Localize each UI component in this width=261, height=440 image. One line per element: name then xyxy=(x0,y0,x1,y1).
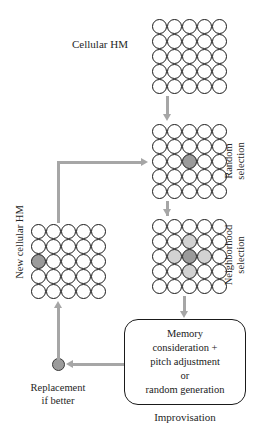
grid-cell xyxy=(167,139,182,154)
label-new-cellular-hm: New cellular HM xyxy=(14,194,26,290)
grid-cell xyxy=(182,139,197,154)
label-random-selection: Randomselection xyxy=(223,115,248,207)
grid-cell xyxy=(197,169,212,184)
grid-cell-selected xyxy=(182,154,197,169)
grid-cell-neighbor xyxy=(197,249,212,264)
grid-cell-neighbor xyxy=(182,234,197,249)
grid-cell xyxy=(76,224,91,239)
connector-line-hm-to-random xyxy=(166,96,169,116)
grid-cell xyxy=(182,124,197,139)
grid-cell xyxy=(182,279,197,294)
grid-cell xyxy=(152,234,167,249)
grid-cell xyxy=(91,254,106,269)
grid-cell xyxy=(152,79,167,94)
grid-random-selection xyxy=(152,124,227,199)
grid-cell xyxy=(167,219,182,234)
grid-cell xyxy=(212,19,227,34)
grid-cell xyxy=(91,269,106,284)
grid-cell xyxy=(152,249,167,264)
grid-cell xyxy=(182,49,197,64)
grid-cell xyxy=(91,239,106,254)
grid-cell xyxy=(46,239,61,254)
grid-cell xyxy=(31,269,46,284)
grid-cell xyxy=(152,49,167,64)
arrow-down-icon xyxy=(163,209,171,216)
diagram-canvas: Cellular HM xyxy=(0,0,261,440)
grid-cell xyxy=(197,264,212,279)
grid-cell xyxy=(197,79,212,94)
grid-cell xyxy=(167,234,182,249)
grid-cell xyxy=(152,124,167,139)
grid-cell-selected xyxy=(182,249,197,264)
grid-cell xyxy=(76,269,91,284)
grid-cell xyxy=(31,239,46,254)
grid-cell xyxy=(197,64,212,79)
connector-line-feedback-vertical xyxy=(57,161,60,223)
grid-cell xyxy=(46,269,61,284)
grid-cell xyxy=(167,49,182,64)
grid-cell xyxy=(197,154,212,169)
grid-cell xyxy=(212,79,227,94)
grid-cell xyxy=(197,124,212,139)
grid-cell xyxy=(167,154,182,169)
grid-cell xyxy=(167,124,182,139)
grid-cell xyxy=(167,184,182,199)
grid-cell xyxy=(197,49,212,64)
grid-cell xyxy=(197,139,212,154)
grid-cell xyxy=(197,184,212,199)
grid-cellular-hm xyxy=(152,19,227,94)
label-cellular-hm: Cellular HM xyxy=(72,38,128,51)
grid-cell xyxy=(182,34,197,49)
grid-cell xyxy=(31,224,46,239)
arrow-down-icon xyxy=(163,114,171,121)
grid-cell xyxy=(197,234,212,249)
grid-cell xyxy=(76,284,91,299)
grid-cell xyxy=(91,224,106,239)
grid-cell xyxy=(182,169,197,184)
label-neighborhood-selection: Neighborhoodselection xyxy=(223,207,248,303)
label-improvisation: Improvisation xyxy=(120,411,250,424)
grid-cell-neighbor xyxy=(182,264,197,279)
grid-cell xyxy=(182,184,197,199)
grid-cell xyxy=(182,79,197,94)
grid-cell-neighbor xyxy=(167,249,182,264)
grid-cell xyxy=(167,64,182,79)
grid-cell xyxy=(182,19,197,34)
grid-new-cellular-hm xyxy=(31,224,106,299)
grid-cell xyxy=(76,239,91,254)
grid-cell xyxy=(152,154,167,169)
arrow-up-icon xyxy=(54,301,62,308)
grid-cell xyxy=(182,64,197,79)
grid-cell-selected xyxy=(31,254,46,269)
grid-cell xyxy=(61,269,76,284)
grid-cell xyxy=(46,254,61,269)
grid-cell xyxy=(152,219,167,234)
grid-cell xyxy=(91,284,106,299)
connector-line-replacement-to-new-hm xyxy=(57,306,60,360)
label-replacement-if-better: Replacementif better xyxy=(6,382,110,407)
grid-cell xyxy=(61,284,76,299)
grid-cell xyxy=(167,19,182,34)
grid-cell xyxy=(152,139,167,154)
grid-cell xyxy=(152,64,167,79)
grid-cell xyxy=(61,239,76,254)
grid-cell xyxy=(152,34,167,49)
grid-cell xyxy=(152,184,167,199)
grid-cell xyxy=(167,34,182,49)
arrow-down-icon xyxy=(180,311,188,318)
grid-cell xyxy=(197,19,212,34)
grid-cell xyxy=(197,34,212,49)
grid-cell xyxy=(167,79,182,94)
grid-cell xyxy=(212,64,227,79)
grid-cell xyxy=(152,264,167,279)
grid-cell xyxy=(46,284,61,299)
grid-cell xyxy=(31,284,46,299)
grid-cell xyxy=(61,224,76,239)
grid-cell xyxy=(197,219,212,234)
connector-line-feedback-horizontal xyxy=(57,161,143,164)
grid-cell xyxy=(152,279,167,294)
improvisation-box: Memoryconsideration +pitch adjustmentorr… xyxy=(124,319,246,405)
grid-cell xyxy=(212,34,227,49)
grid-cell xyxy=(167,279,182,294)
grid-cell xyxy=(212,49,227,64)
